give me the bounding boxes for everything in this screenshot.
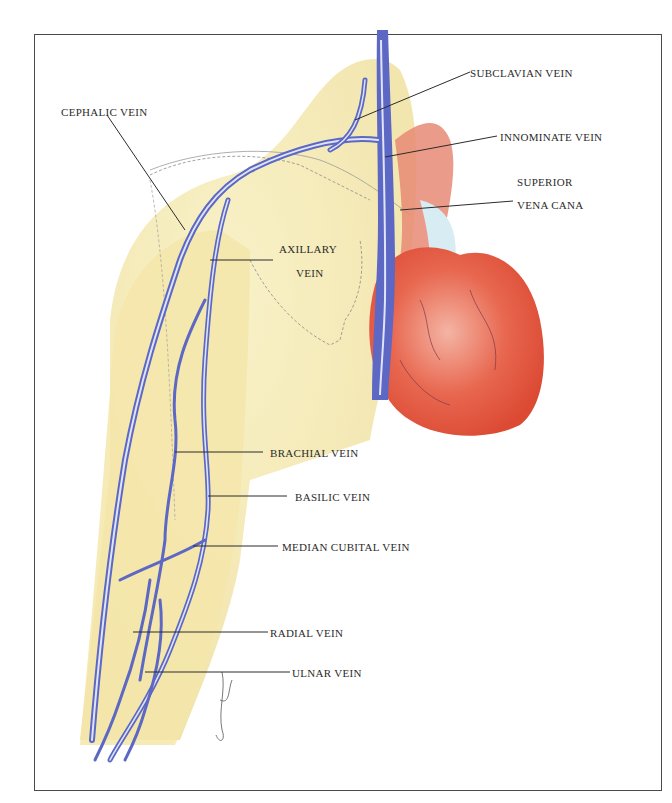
label-axillary-line1: AXILLARY (279, 242, 337, 256)
label-median-cubital-vein: MEDIAN CUBITAL VEIN (282, 540, 410, 554)
label-innominate-vein: INNOMINATE VEIN (500, 130, 602, 144)
label-axillary-line2: VEIN (296, 266, 323, 280)
label-ulnar-vein: ULNAR VEIN (292, 666, 362, 680)
anatomy-illustration (0, 0, 672, 803)
label-basilic-vein: BASILIC VEIN (295, 490, 370, 504)
label-subclavian-vein: SUBCLAVIAN VEIN (470, 66, 573, 80)
artist-signature (216, 672, 232, 740)
label-svc-line2: VENA CANA (517, 198, 584, 212)
heart (369, 247, 544, 435)
label-radial-vein: RADIAL VEIN (270, 626, 343, 640)
label-brachial-vein: BRACHIAL VEIN (270, 446, 359, 460)
label-cephalic-vein: CEPHALIC VEIN (61, 105, 148, 119)
label-svc-line1: SUPERIOR (517, 175, 573, 189)
